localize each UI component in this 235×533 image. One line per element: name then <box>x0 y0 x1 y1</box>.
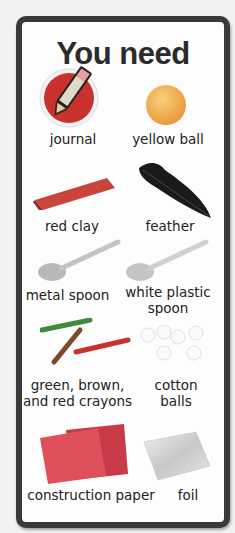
cotton-balls-icon <box>140 325 212 365</box>
clay-bar-icon <box>33 172 119 212</box>
item-label-foil: foil <box>168 487 208 503</box>
ball-icon <box>145 84 187 126</box>
item-label-journal: journal <box>28 131 118 147</box>
metal-spoon-icon <box>36 238 122 284</box>
journal-pencil-icon <box>36 62 102 128</box>
item-label-construction-paper: construction paper <box>26 487 156 503</box>
plastic-spoon-icon <box>124 238 210 284</box>
item-label-crayons: green, brown, <box>20 377 135 393</box>
item-label-metal-spoon: metal spoon <box>20 287 115 303</box>
item-label-crayons-line2: and red crayons <box>20 393 135 409</box>
item-label-white-plastic-spoon-line2: spoon <box>122 300 214 316</box>
item-label-white-plastic-spoon: white plastic <box>122 284 214 300</box>
foil-icon <box>140 430 212 482</box>
item-label-cotton-balls-line2: balls <box>146 393 206 409</box>
item-label-yellow-ball: yellow ball <box>122 131 214 147</box>
item-label-red-clay: red clay <box>32 218 112 234</box>
crayons-icon <box>40 318 132 368</box>
feather-icon <box>135 160 215 222</box>
item-label-cotton-balls: cotton <box>146 377 206 393</box>
item-label-feather: feather <box>140 218 200 234</box>
construction-paper-icon <box>38 420 130 486</box>
